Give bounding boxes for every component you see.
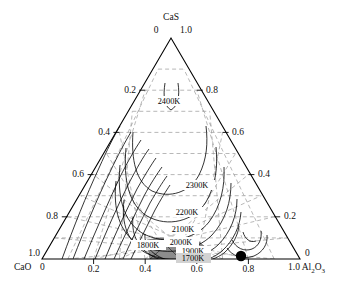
right-axis-tick-0: 0.8: [206, 85, 218, 95]
corner-label-cao: CaO: [14, 262, 32, 272]
contour-label-1700k: 1700K: [182, 254, 205, 263]
bottom-axis-tick-0: 0: [40, 262, 45, 272]
bottom-axis-tick-4: 0.8: [242, 264, 254, 274]
composition-marker[interactable]: [236, 251, 246, 261]
left-axis-tick-2: 0.6: [72, 169, 84, 179]
contour-label-2200k: 2200K: [176, 208, 199, 217]
ternary-diagram-svg: CaS 0 1.0 0.2 0.4 0.6 0.8 1.0 0.8 0.6 0.…: [0, 0, 347, 294]
bottom-axis-tick-2: 0.4: [139, 264, 151, 274]
apex-tick-left: 0: [154, 25, 159, 35]
right-axis-tick-2: 0.4: [258, 169, 270, 179]
right-axis-tick-4: 0: [305, 248, 310, 258]
contour-label-2400k: 2400K: [158, 97, 181, 106]
ternary-phase-diagram: CaS 0 1.0 0.2 0.4 0.6 0.8 1.0 0.8 0.6 0.…: [0, 0, 347, 294]
contour-label-2000k: 2000K: [170, 238, 193, 247]
left-axis-tick-1: 0.4: [98, 127, 110, 137]
left-axis-tick-3: 0.8: [46, 211, 58, 221]
apex-label-cas: CaS: [163, 12, 179, 22]
right-axis-tick-3: 0.2: [284, 211, 296, 221]
left-axis-tick-4: 1.0: [28, 248, 40, 258]
right-axis-tick-1: 0.6: [232, 127, 244, 137]
contour-label-2300k: 2300K: [186, 181, 209, 190]
bottom-axis-tick-3: 0.6: [191, 264, 203, 274]
left-axis-tick-0: 0.2: [124, 85, 136, 95]
contour-label-1800k: 1800K: [137, 241, 160, 250]
bottom-axis-tick-1: 0.2: [88, 264, 100, 274]
apex-tick-right: 1.0: [180, 25, 192, 35]
contour-label-2100k: 2100K: [172, 225, 195, 234]
